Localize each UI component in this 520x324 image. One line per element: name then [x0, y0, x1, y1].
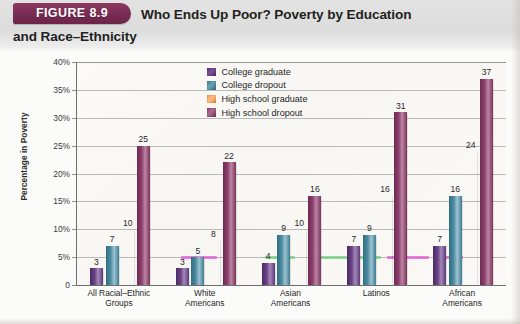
bar: 7 — [347, 246, 360, 285]
x-axis-category-label: AsianAmericans — [248, 288, 334, 309]
x-axis-category-label: All Racial–EthnicGroups — [76, 288, 162, 309]
y-axis-tick-label: 30% — [40, 113, 70, 123]
bar-value-label: 16 — [380, 184, 390, 194]
bar: 7 — [433, 246, 446, 285]
figure-number-badge: FIGURE 8.9 — [13, 3, 131, 24]
bar: 16 — [308, 196, 321, 285]
bar-value-label: 24 — [466, 140, 476, 150]
bar-value-label: 3 — [180, 257, 185, 267]
y-axis-tick-labels: 05%10%15%20%25%30%35%40% — [38, 48, 70, 288]
y-axis-tick-label: 25% — [40, 141, 70, 151]
bar: 9 — [277, 235, 290, 285]
figure-root: FIGURE 8.9 Who Ends Up Poor? Poverty by … — [0, 0, 520, 324]
bar-value-label: 22 — [224, 151, 234, 161]
bar: 9 — [363, 235, 376, 285]
legend-label: College graduate — [222, 67, 291, 77]
bar-value-label: 16 — [451, 184, 461, 194]
x-axis-category-label: AfricanAmericans — [419, 288, 505, 309]
bar: 22 — [223, 162, 236, 285]
bar-value-label: 10 — [295, 218, 305, 228]
figure-number-label: FIGURE 8.9 — [13, 3, 131, 24]
y-axis-tick-label: 35% — [40, 85, 70, 95]
bar-value-label: 7 — [110, 234, 115, 244]
bar-value-label: 37 — [482, 67, 492, 77]
legend-item[interactable]: College graduate — [207, 65, 307, 79]
bar-group: 371025 — [90, 62, 150, 285]
bar: 16 — [379, 196, 392, 285]
chart-legend: College graduateCollege dropoutHigh scho… — [207, 65, 307, 119]
bar: 7 — [106, 246, 119, 285]
bar-value-label: 10 — [123, 218, 133, 228]
y-axis-tick-label: 5% — [40, 252, 70, 262]
bar-value-label: 4 — [266, 251, 271, 261]
bar: 10 — [293, 229, 306, 285]
y-axis-tick-label: 40% — [40, 57, 70, 67]
figure-title-line-2: and Race–Ethnicity — [13, 26, 513, 47]
bar: 25 — [137, 146, 150, 285]
x-axis-category-label: WhiteAmericans — [162, 288, 248, 309]
legend-item[interactable]: High school dropout — [207, 106, 307, 120]
bar-value-label: 7 — [352, 234, 357, 244]
bar: 24 — [464, 151, 477, 285]
figure-title-line-1: Who Ends Up Poor? Poverty by Education — [141, 4, 513, 26]
bar: 8 — [207, 240, 220, 285]
bar-value-label: 8 — [211, 229, 216, 239]
bar-group: 7162437 — [433, 62, 493, 285]
bar-group: 791631 — [347, 62, 407, 285]
bar-value-label: 5 — [196, 246, 201, 256]
x-axis-category-label: Latinos — [333, 288, 419, 298]
bar: 16 — [449, 196, 462, 285]
bar-value-label: 9 — [367, 223, 372, 233]
bar: 5 — [191, 257, 204, 285]
legend-item[interactable]: College dropout — [207, 79, 307, 93]
bar-value-label: 3 — [94, 257, 99, 267]
bar-value-label: 7 — [437, 234, 442, 244]
y-axis-tick-label: 15% — [40, 196, 70, 206]
legend-label: High school dropout — [222, 108, 303, 118]
bar: 10 — [121, 229, 134, 285]
y-axis-tick-label: 20% — [40, 169, 70, 179]
bar-value-label: 31 — [396, 101, 406, 111]
legend-label: College dropout — [222, 80, 286, 90]
legend-color-swatch — [207, 81, 216, 90]
bar: 3 — [176, 268, 189, 285]
legend-color-swatch — [207, 95, 216, 104]
bar-value-label: 9 — [281, 223, 286, 233]
y-axis-title: Percentage in Poverty — [20, 97, 29, 217]
bar-value-label: 16 — [310, 184, 320, 194]
bar: 4 — [262, 263, 275, 285]
bar: 37 — [480, 79, 493, 285]
legend-color-swatch — [207, 68, 216, 77]
chart-plot-wrapper: Percentage in Poverty 05%10%15%20%25%30%… — [0, 48, 520, 324]
figure-header: FIGURE 8.9 Who Ends Up Poor? Poverty by … — [0, 0, 520, 48]
bar-value-label: 25 — [139, 134, 149, 144]
legend-item[interactable]: High school graduate — [207, 92, 307, 106]
legend-color-swatch — [207, 108, 216, 117]
y-axis-tick-label: 10% — [40, 224, 70, 234]
bar: 31 — [394, 112, 407, 285]
bar: 3 — [90, 268, 103, 285]
y-axis-tick-label: 0 — [40, 280, 70, 290]
legend-label: High school graduate — [222, 94, 308, 104]
